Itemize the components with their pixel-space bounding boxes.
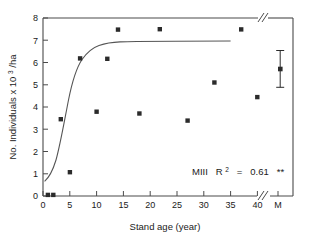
x-tick-label: 40 bbox=[252, 200, 262, 210]
y-tick-label: 6 bbox=[33, 58, 38, 68]
x-tick-label-mature: M bbox=[274, 200, 282, 210]
fit-annotation: MIII R 2 = 0.61 ** bbox=[192, 163, 284, 178]
x-tick-label: 20 bbox=[145, 200, 155, 210]
data-point bbox=[68, 170, 72, 174]
data-point bbox=[158, 27, 162, 31]
data-point bbox=[137, 111, 141, 115]
annotation-value: 0.61 bbox=[250, 166, 269, 177]
y-tick-label: 5 bbox=[33, 80, 38, 90]
x-axis-title: Stand age (year) bbox=[130, 221, 201, 232]
x-tick-label: 35 bbox=[226, 200, 236, 210]
data-point bbox=[116, 27, 120, 31]
y-tick-label: 3 bbox=[33, 125, 38, 135]
x-tick-label: 0 bbox=[40, 200, 45, 210]
y-tick-label: 0 bbox=[33, 191, 38, 201]
x-axis-tick-labels: 0 5 10 15 20 25 30 35 40 M bbox=[40, 200, 281, 210]
y-axis-title: No. Individuals x 10 3 /ha bbox=[4, 54, 19, 160]
y-tick-label: 4 bbox=[33, 102, 38, 112]
x-tick-label: 5 bbox=[67, 200, 72, 210]
data-point bbox=[94, 110, 98, 114]
x-tick-label: 25 bbox=[172, 200, 182, 210]
data-point bbox=[78, 56, 82, 60]
data-point bbox=[212, 80, 216, 84]
y-tick-label: 7 bbox=[33, 36, 38, 46]
x-axis-ticks bbox=[43, 191, 278, 196]
y-tick-label: 2 bbox=[33, 147, 38, 157]
y-axis-ticks bbox=[43, 18, 48, 196]
y-axis-tick-labels: 0 1 2 3 4 5 6 7 8 bbox=[33, 13, 38, 201]
annotation-significance: ** bbox=[277, 166, 285, 177]
scatter-plot-svg: 0 1 2 3 4 5 6 7 8 0 5 10 1 bbox=[0, 0, 310, 241]
y-tick-label: 8 bbox=[33, 13, 38, 23]
y-axis-title-post: /ha bbox=[7, 54, 18, 68]
annotation-equals: = bbox=[237, 166, 243, 177]
x-tick-label: 30 bbox=[199, 200, 209, 210]
fit-curve bbox=[45, 41, 231, 181]
data-point bbox=[185, 118, 189, 122]
annotation-r: R bbox=[216, 166, 223, 177]
data-point bbox=[239, 27, 243, 31]
top-axis-break-icon bbox=[258, 13, 268, 22]
data-point bbox=[255, 95, 259, 99]
x-tick-label: 15 bbox=[118, 200, 128, 210]
chart-figure: 0 1 2 3 4 5 6 7 8 0 5 10 1 bbox=[0, 0, 310, 241]
data-point bbox=[46, 193, 50, 197]
annotation-model: MIII bbox=[192, 166, 208, 177]
data-point bbox=[105, 57, 109, 61]
y-tick-label: 1 bbox=[33, 169, 38, 179]
data-point bbox=[59, 117, 63, 121]
y-axis-title-exponent: 3 bbox=[7, 70, 14, 74]
mature-data-point bbox=[278, 67, 283, 72]
y-axis-title-pre: No. Individuals x 10 bbox=[7, 77, 18, 160]
annotation-r-exponent: 2 bbox=[225, 166, 229, 173]
data-point bbox=[51, 193, 55, 197]
x-tick-label: 10 bbox=[92, 200, 102, 210]
